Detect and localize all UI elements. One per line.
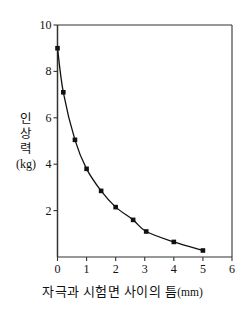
x-tick-label: 6 (229, 263, 235, 275)
x-axis-title-main: 자극과 시험면 사이의 틈 (42, 284, 177, 299)
y-tick-label: 2 (46, 205, 52, 217)
y-axis-title-char: 인 (6, 112, 46, 127)
y-axis-title-char: 력 (6, 142, 46, 157)
x-tick-label: 3 (142, 263, 148, 275)
x-axis-title-unit: (mm) (177, 286, 203, 298)
y-tick-label: 4 (46, 158, 52, 170)
axis-ticks (54, 25, 233, 261)
y-axis-title-char: 상 (6, 127, 46, 142)
chart-figure: 246810 0123456 인상력(kg) 자극과 시험면 사이의 틈(mm) (0, 0, 245, 310)
x-tick-label: 0 (55, 263, 61, 275)
data-point (172, 240, 177, 245)
x-tick-label: 4 (171, 263, 177, 275)
plot-frame (58, 25, 233, 257)
y-tick-label: 6 (46, 112, 52, 124)
data-point (55, 46, 60, 51)
data-point (201, 248, 206, 253)
data-point (99, 189, 104, 194)
y-axis-title-unit: (kg) (6, 157, 46, 171)
y-tick-label: 8 (46, 65, 52, 77)
x-tick-label: 5 (200, 263, 206, 275)
y-tick-label: 10 (40, 19, 52, 31)
data-curve (58, 48, 203, 250)
data-point (84, 167, 89, 172)
data-point (73, 138, 78, 143)
data-point (131, 218, 136, 223)
x-tick-label: 2 (113, 263, 119, 275)
y-axis-title: 인상력(kg) (6, 112, 46, 171)
x-axis-title: 자극과 시험면 사이의 틈(mm) (0, 281, 245, 300)
data-point (144, 229, 149, 234)
x-tick-label: 1 (84, 263, 90, 275)
data-point (61, 90, 66, 95)
data-point (113, 205, 118, 210)
